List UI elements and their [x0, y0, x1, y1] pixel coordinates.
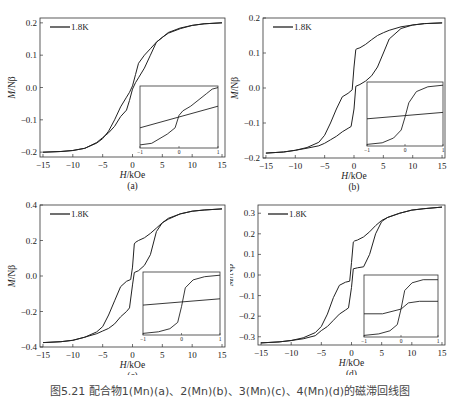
x-axis-label: H/kOe — [338, 358, 364, 368]
x-axis-ticks: −15−10−5051015 — [259, 155, 447, 171]
y-tick-label: 0.2 — [249, 13, 260, 23]
y-tick-label: 0.0 — [26, 271, 38, 281]
inset-tick-label: 1 — [437, 338, 440, 344]
x-tick-label: 15 — [218, 350, 228, 360]
x-tick-label: 0 — [130, 160, 135, 170]
inset-tick-label: −1 — [137, 149, 143, 155]
y-tick-label: 0.0 — [26, 83, 38, 93]
x-tick-label: 0 — [130, 350, 135, 360]
x-tick-label: −15 — [259, 161, 274, 171]
chart-a: −15−10−5051015−0.2−0.10.00.10.2H/kOeM/Nβ… — [0, 0, 230, 195]
y-axis-label: M/Nβ — [230, 77, 240, 100]
x-tick-label: 5 — [381, 161, 386, 171]
inset-chart: −101 — [364, 82, 445, 153]
x-axis-ticks: −15−10−5051015 — [254, 342, 447, 358]
inset-chart: −101 — [137, 86, 220, 155]
x-tick-label: −5 — [98, 160, 108, 170]
x-tick-label: −5 — [320, 161, 330, 171]
y-tick-label: −0.1 — [244, 118, 260, 128]
inset-tick-label: 1 — [217, 149, 220, 155]
y-tick-label: 0.1 — [249, 48, 260, 58]
y-tick-label: −0.1 — [239, 291, 255, 301]
inset-tick-label: 0 — [180, 336, 183, 342]
x-tick-label: 5 — [160, 160, 165, 170]
x-tick-label: −5 — [317, 348, 327, 358]
inset-tick-label: 1 — [442, 147, 445, 153]
chart-d: −15−10−5051015−0.3−0.2−0.10.00.10.20.3H/… — [230, 190, 460, 375]
x-tick-label: 10 — [188, 350, 198, 360]
legend: 1.8K — [50, 209, 89, 219]
inset-tick-label: 0 — [404, 147, 407, 153]
x-tick-label: −15 — [36, 160, 51, 170]
panel-c: −15−10−5051015−0.4−0.20.00.20.4H/kOeM/Nβ… — [0, 190, 230, 375]
x-axis-label: H/kOe — [119, 170, 145, 180]
y-tick-label: −0.2 — [244, 153, 260, 163]
panel-b: −15−10−5051015−0.2−0.10.00.10.2H/kOeM/Nβ… — [230, 0, 460, 195]
y-axis-label: M/Nβ — [7, 76, 17, 99]
y-tick-label: 0.2 — [26, 236, 37, 246]
inset-tick-label: 0 — [178, 149, 181, 155]
y-tick-label: −0.2 — [239, 311, 255, 321]
y-tick-label: −0.1 — [21, 115, 37, 125]
y-tick-label: 0.1 — [244, 249, 255, 259]
inset-tick-label: 0 — [400, 338, 403, 344]
x-axis-ticks: −15−10−5051015 — [36, 344, 227, 360]
x-tick-label: −10 — [66, 160, 81, 170]
x-tick-label: −10 — [66, 350, 81, 360]
x-tick-label: 5 — [160, 350, 165, 360]
x-axis-label: H/kOe — [340, 171, 366, 181]
legend-label: 1.8K — [289, 209, 307, 219]
legend-label: 1.8K — [71, 22, 89, 32]
y-tick-label: 0.0 — [244, 270, 256, 280]
panel-d: −15−10−5051015−0.3−0.2−0.10.00.10.20.3H/… — [230, 190, 460, 375]
y-tick-label: 0.2 — [244, 229, 255, 239]
x-tick-label: 5 — [379, 348, 384, 358]
x-tick-label: −5 — [98, 350, 108, 360]
x-tick-label: 0 — [352, 161, 357, 171]
inset-tick-label: 1 — [219, 336, 222, 342]
chart-b: −15−10−5051015−0.2−0.10.00.10.2H/kOeM/Nβ… — [230, 0, 460, 195]
x-tick-label: 10 — [188, 160, 198, 170]
y-tick-label: 0.3 — [244, 208, 256, 218]
y-tick-label: 0.1 — [26, 50, 37, 60]
x-tick-label: −10 — [288, 161, 303, 171]
panel-label: (d) — [346, 369, 357, 375]
y-tick-label: −0.3 — [239, 332, 256, 342]
panel-label: (c) — [127, 371, 138, 375]
y-tick-label: −0.4 — [21, 342, 38, 352]
legend: 1.8K — [268, 209, 307, 219]
inset-chart: −101 — [140, 272, 222, 342]
y-tick-label: 0.2 — [26, 18, 37, 28]
inset-tick-label: −1 — [140, 336, 146, 342]
x-tick-label: 15 — [437, 348, 447, 358]
x-axis-label: H/kOe — [119, 360, 145, 370]
y-tick-label: −0.2 — [21, 307, 37, 317]
y-tick-label: −0.2 — [21, 147, 37, 157]
x-tick-label: 10 — [408, 161, 418, 171]
x-axis-ticks: −15−10−5051015 — [36, 154, 227, 170]
y-axis-label: M/Nβ — [7, 265, 17, 288]
inset-tick-label: −1 — [361, 338, 367, 344]
x-tick-label: 15 — [218, 160, 228, 170]
inset-tick-label: −1 — [364, 147, 370, 153]
y-tick-label: 0.0 — [249, 83, 261, 93]
figure-caption: 图5.21 配合物1(Mn)(a)、2(Mn)(b)、3(Mn)(c)、4(Mn… — [0, 382, 460, 398]
x-tick-label: −15 — [254, 348, 269, 358]
chart-c: −15−10−5051015−0.4−0.20.00.20.4H/kOeM/Nβ… — [0, 190, 230, 375]
x-tick-label: −15 — [36, 350, 51, 360]
x-tick-label: 0 — [349, 348, 354, 358]
legend-label: 1.8K — [294, 22, 312, 32]
x-tick-label: −10 — [284, 348, 299, 358]
y-tick-label: 0.4 — [26, 200, 38, 210]
x-tick-label: 15 — [438, 161, 448, 171]
legend-label: 1.8K — [71, 209, 89, 219]
x-tick-label: 10 — [407, 348, 417, 358]
legend: 1.8K — [273, 22, 312, 32]
y-axis-label: M/Nβ — [230, 264, 235, 287]
panel-a: −15−10−5051015−0.2−0.10.00.10.2H/kOeM/Nβ… — [0, 0, 230, 195]
inset-chart: −101 — [361, 275, 440, 344]
legend: 1.8K — [50, 22, 89, 32]
